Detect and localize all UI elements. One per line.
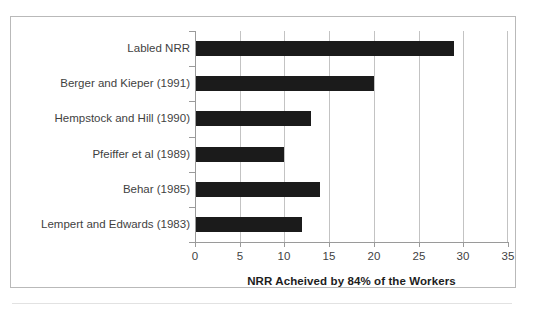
category-label-lempert-and-edwards-1983: Lempert and Edwards (1983) [10, 218, 190, 231]
x-tick-label-15: 15 [309, 250, 349, 262]
x-tick-label-10: 10 [264, 250, 304, 262]
plot-area [195, 31, 508, 242]
gridline-35 [507, 31, 508, 242]
x-axis-tick [419, 242, 420, 247]
x-axis-tick [508, 242, 509, 247]
x-tick-label-35: 35 [488, 250, 528, 262]
x-tick-label-30: 30 [443, 250, 483, 262]
gridline-30 [463, 31, 464, 242]
gridline-15 [329, 31, 330, 242]
x-axis-line [195, 242, 509, 243]
bar-hempstock-and-hill-1990 [195, 111, 311, 126]
x-axis-title: NRR Acheived by 84% of the Workers [195, 275, 508, 287]
scan-artifact-line [12, 303, 512, 304]
x-axis-tick [374, 242, 375, 247]
category-label-hempstock-and-hill-1990: Hempstock and Hill (1990) [10, 112, 190, 125]
bar-labled-nrr [195, 41, 454, 56]
bar-behar-1985 [195, 182, 320, 197]
gridline-25 [419, 31, 420, 242]
x-axis-tick [240, 242, 241, 247]
bar-berger-and-kieper-1991 [195, 76, 374, 91]
category-label-berger-and-kieper-1991: Berger and Kieper (1991) [10, 77, 190, 90]
x-tick-label-20: 20 [354, 250, 394, 262]
y-axis-line [195, 31, 196, 243]
x-tick-label-25: 25 [399, 250, 439, 262]
bar-lempert-and-edwards-1983 [195, 217, 302, 232]
category-label-behar-1985: Behar (1985) [10, 183, 190, 196]
chart-figure: Labled NRR Berger and Kieper (1991) Hemp… [0, 0, 541, 322]
x-tick-label-5: 5 [220, 250, 260, 262]
gridline-10 [284, 31, 285, 242]
gridline-20 [374, 31, 375, 242]
category-axis-labels: Labled NRR Berger and Kieper (1991) Hemp… [5, 31, 190, 242]
x-axis-tick [284, 242, 285, 247]
x-axis-tick [195, 242, 196, 247]
category-label-pfeiffer-et-al-1989: Pfeiffer et al (1989) [10, 148, 190, 161]
x-axis-tick [329, 242, 330, 247]
gridline-5 [240, 31, 241, 242]
x-tick-label-0: 0 [175, 250, 215, 262]
bar-pfeiffer-et-al-1989 [195, 147, 284, 162]
x-axis-tick [463, 242, 464, 247]
category-label-labled-nrr: Labled NRR [10, 42, 190, 55]
